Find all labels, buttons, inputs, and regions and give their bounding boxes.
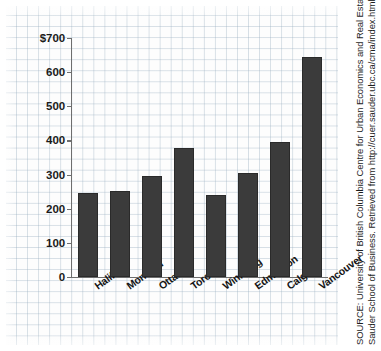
bar-vancouver[interactable] xyxy=(302,57,322,277)
source-note: SOURCE: University of British Columbia C… xyxy=(339,0,381,351)
bar-group: Montreal xyxy=(104,38,136,277)
bar-group: Halifax xyxy=(72,38,104,277)
y-tick-label: 100 xyxy=(46,237,65,249)
x-tick-label-montreal: Montreal xyxy=(124,282,131,292)
source-note-line-1: SOURCE: University of British Columbia C… xyxy=(354,0,365,345)
bar-group: Edmonton xyxy=(232,38,264,277)
x-tick-label-halifax: Halifax xyxy=(92,282,99,292)
bar-toronto[interactable] xyxy=(174,148,194,277)
source-note-line-2: Sauder School of Business. Retrieved fro… xyxy=(366,0,377,345)
bar-edmonton[interactable] xyxy=(238,173,258,277)
x-tick-label-ottawa: Ottawa xyxy=(156,282,163,292)
bar-series: HalifaxMontrealOttawaTorontoWinnipegEdmo… xyxy=(72,38,328,277)
y-tick-label: 600 xyxy=(46,66,65,78)
bar-group: Vancouver xyxy=(296,38,328,277)
y-tick-label: 500 xyxy=(46,100,65,112)
y-tick-label: 300 xyxy=(46,169,65,181)
x-tick-label-toronto: Toronto xyxy=(188,282,195,292)
x-tick-label-vancouver: Vancouver xyxy=(316,282,323,292)
bar-group: Winnipeg xyxy=(200,38,232,277)
x-tick-label-calgary: Calgary xyxy=(284,282,291,292)
chart-page: 0100200300400500600$700 HalifaxMontrealO… xyxy=(0,0,381,351)
bar-ottawa[interactable] xyxy=(142,176,162,277)
y-tick-label: 400 xyxy=(46,134,65,146)
bar-chart: 0100200300400500600$700 HalifaxMontrealO… xyxy=(0,0,338,351)
y-tick-label: 200 xyxy=(46,203,65,215)
y-tick-mark xyxy=(67,277,72,278)
bar-group: Calgary xyxy=(264,38,296,277)
y-tick-label: 0 xyxy=(59,271,65,283)
x-tick-label-edmonton: Edmonton xyxy=(252,282,259,292)
x-tick-label-winnipeg: Winnipeg xyxy=(220,282,227,292)
bar-winnipeg[interactable] xyxy=(206,195,226,277)
plot-area: 0100200300400500600$700 HalifaxMontrealO… xyxy=(72,38,328,277)
bar-calgary[interactable] xyxy=(270,142,290,277)
bar-halifax[interactable] xyxy=(78,193,98,277)
bar-group: Toronto xyxy=(168,38,200,277)
bar-montreal[interactable] xyxy=(110,191,130,277)
bar-group: Ottawa xyxy=(136,38,168,277)
y-tick-label: $700 xyxy=(40,32,65,44)
